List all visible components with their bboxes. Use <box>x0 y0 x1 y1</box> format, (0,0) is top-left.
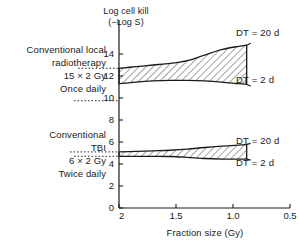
chart-figure: Log cell kill (−Log S) Conventional loca… <box>0 0 299 247</box>
y-tick-label: 2 <box>109 180 114 191</box>
y-tick-label: 10 <box>103 92 114 103</box>
data-bands <box>119 45 247 159</box>
x-tick-label: 2 <box>119 210 124 221</box>
x-tick-label: 1.0 <box>226 210 239 221</box>
y-tick-label: 6 <box>109 136 114 147</box>
y-tick-label: 0 <box>109 202 114 213</box>
y-tick-label: 12 <box>103 70 114 81</box>
y-tick-label: 4 <box>109 158 114 169</box>
axes: 0246810121421.51.00.5 <box>103 20 296 221</box>
plot-area: 0246810121421.51.00.5 <box>0 0 299 247</box>
band-tbi <box>119 144 247 159</box>
x-tick-label: 1.5 <box>169 210 182 221</box>
y-tick-label: 8 <box>109 114 114 125</box>
x-tick-label: 0.5 <box>283 210 296 221</box>
band-local-radiotherapy <box>119 45 247 84</box>
y-tick-label: 14 <box>103 48 114 59</box>
